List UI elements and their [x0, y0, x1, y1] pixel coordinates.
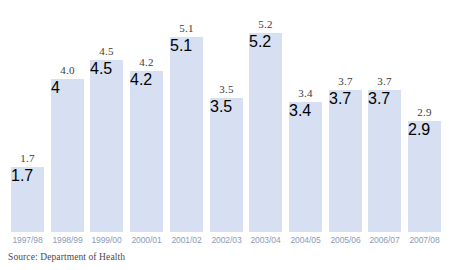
- bar[interactable]: 4.5: [90, 60, 123, 232]
- bar[interactable]: 5.1: [170, 37, 203, 232]
- plot-area: 1.71.744.04.54.54.24.25.15.13.53.55.25.2…: [11, 0, 448, 232]
- bar-group: 3.53.5: [210, 0, 243, 232]
- bar-group: 5.25.2: [249, 0, 282, 232]
- bar-group: 1.71.7: [11, 0, 44, 232]
- bar-value-label: 4.5: [84, 45, 129, 57]
- bar-value-label: 4.0: [45, 64, 90, 76]
- bar[interactable]: 3.5: [210, 98, 243, 232]
- x-tick-label: 2007/08: [402, 235, 447, 245]
- bar-group: 4.24.2: [130, 0, 163, 232]
- bar-group: 5.15.1: [170, 0, 203, 232]
- bar-group: 3.43.4: [289, 0, 322, 232]
- bar-value-label: 4.2: [124, 56, 169, 68]
- bar[interactable]: 2.9: [408, 121, 441, 232]
- source-note: Source: Department of Health: [8, 252, 125, 262]
- x-axis-tick-labels: 1997/981998/991999/002000/012001/022002/…: [11, 235, 448, 249]
- x-tick-label: 2000/01: [124, 235, 169, 245]
- bar-value-label: 1.7: [5, 152, 50, 164]
- bar-value-label: 5.2: [243, 18, 288, 30]
- bar-group: 3.73.7: [368, 0, 401, 232]
- bar-value-label: 3.4: [283, 87, 328, 99]
- bar[interactable]: 3.7: [368, 90, 401, 232]
- bar-value-label: 2.9: [402, 106, 447, 118]
- bar-group: 3.73.7: [329, 0, 362, 232]
- bar-group: 2.92.9: [408, 0, 441, 232]
- x-tick-label: 1997/98: [5, 235, 50, 245]
- bar[interactable]: 5.2: [249, 33, 282, 232]
- bar[interactable]: 1.7: [11, 167, 44, 232]
- x-tick-label: 2003/04: [243, 235, 288, 245]
- bar[interactable]: 4: [51, 79, 84, 232]
- x-tick-label: 2006/07: [362, 235, 407, 245]
- bar[interactable]: 3.4: [289, 102, 322, 232]
- bar-chart-figure: 1.71.744.04.54.54.24.25.15.13.53.55.25.2…: [0, 0, 459, 270]
- x-tick-label: 2004/05: [283, 235, 328, 245]
- bar-value-label: 3.7: [362, 75, 407, 87]
- bar-group: 4.54.5: [90, 0, 123, 232]
- bar-group: 44.0: [51, 0, 84, 232]
- bar[interactable]: 4.2: [130, 71, 163, 232]
- bar-value-label: 5.1: [164, 22, 209, 34]
- bar-value-label: 3.5: [204, 83, 249, 95]
- x-tick-label: 2001/02: [164, 235, 209, 245]
- x-tick-label: 1999/00: [84, 235, 129, 245]
- bar[interactable]: 3.7: [329, 90, 362, 232]
